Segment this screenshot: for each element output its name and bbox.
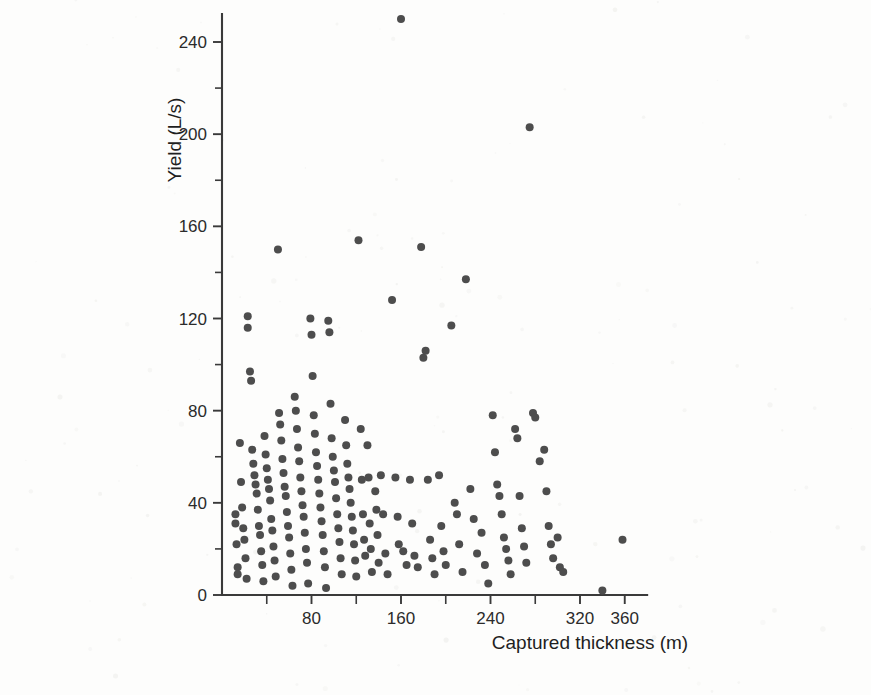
paper-speck: [9, 575, 14, 580]
paper-speck: [696, 555, 699, 558]
paper-speck: [519, 513, 522, 516]
data-point: [329, 453, 337, 461]
paper-speck: [711, 690, 714, 693]
data-point: [254, 506, 262, 514]
paper-speck: [57, 394, 62, 399]
paper-speck: [737, 681, 740, 684]
paper-speck: [657, 1, 659, 3]
data-point: [261, 432, 269, 440]
data-point: [419, 354, 427, 362]
data-point: [495, 492, 503, 500]
paper-speck: [89, 600, 91, 602]
paper-speck: [415, 529, 419, 533]
data-point: [470, 515, 478, 523]
data-point: [375, 559, 383, 567]
data-point: [347, 499, 355, 507]
data-point: [598, 586, 606, 594]
data-point: [263, 464, 271, 472]
data-point: [246, 368, 254, 376]
y-tick-label: 80: [188, 402, 207, 421]
data-point: [303, 559, 311, 567]
data-point: [311, 430, 319, 438]
paper-speck: [756, 261, 759, 264]
paper-speck: [813, 406, 817, 410]
data-point: [348, 513, 356, 521]
data-point: [337, 554, 345, 562]
paper-speck: [683, 408, 687, 412]
data-point: [406, 476, 414, 484]
x-tick-label: 360: [611, 609, 639, 628]
paper-speck: [503, 13, 504, 14]
data-point: [284, 522, 292, 530]
paper-speck: [200, 22, 202, 24]
paper-speck: [239, 296, 241, 298]
data-point: [243, 575, 251, 583]
paper-speck: [253, 550, 258, 555]
data-point: [428, 554, 436, 562]
paper-speck: [395, 178, 398, 181]
data-point: [259, 577, 267, 585]
paper-speck: [860, 546, 865, 551]
x-axis-title: Captured thickness (m): [492, 632, 688, 653]
data-point: [332, 494, 340, 502]
paper-speck: [146, 514, 149, 517]
data-point: [286, 550, 294, 558]
paper-speck: [509, 439, 512, 442]
data-point: [498, 510, 506, 518]
data-point: [372, 506, 380, 514]
data-point: [301, 529, 309, 537]
paper-speck: [335, 22, 338, 25]
paper-speck: [295, 334, 299, 338]
paper-speck: [794, 489, 796, 491]
data-point: [478, 529, 486, 537]
y-tick-label: 40: [188, 494, 207, 513]
data-point: [455, 540, 463, 548]
data-point: [462, 275, 470, 283]
data-point: [234, 563, 242, 571]
data-point: [318, 517, 326, 525]
data-point: [540, 446, 548, 454]
paper-speck: [441, 266, 443, 268]
paper-speck: [397, 664, 400, 667]
data-point: [272, 573, 280, 581]
paper-speck: [774, 388, 776, 390]
data-point: [357, 425, 365, 433]
scatter-plot: 8016024032036004080120160200240 Captured…: [0, 0, 871, 695]
data-point: [349, 526, 357, 534]
data-point: [276, 420, 284, 428]
paper-speck: [179, 421, 184, 426]
paper-speck: [772, 608, 777, 613]
paper-speck: [563, 88, 566, 91]
data-point: [258, 561, 266, 569]
paper-speck: [593, 542, 597, 546]
paper-speck: [95, 299, 98, 302]
data-point: [459, 568, 467, 576]
paper-speck: [117, 638, 121, 642]
paper-speck: [142, 602, 146, 606]
paper-speck: [295, 279, 298, 282]
paper-speck: [112, 37, 114, 39]
paper-speck: [358, 472, 361, 475]
paper-speck: [820, 626, 825, 631]
paper-speck: [790, 307, 793, 310]
data-point: [422, 347, 430, 355]
data-point: [269, 543, 277, 551]
data-point: [248, 446, 256, 454]
data-point: [346, 485, 354, 493]
paper-speck: [440, 279, 442, 281]
paper-speck: [495, 152, 497, 154]
data-point: [244, 312, 252, 320]
data-point: [388, 296, 396, 304]
data-point: [315, 490, 323, 498]
data-point: [341, 416, 349, 424]
data-point: [426, 536, 434, 544]
paper-speck: [380, 246, 383, 249]
data-point: [394, 513, 402, 521]
paper-speck: [679, 604, 683, 608]
paper-speck: [295, 683, 298, 686]
data-point: [266, 497, 274, 505]
data-point: [300, 513, 308, 521]
paper-speck: [168, 186, 171, 189]
data-point: [287, 566, 295, 574]
data-point: [410, 552, 418, 560]
